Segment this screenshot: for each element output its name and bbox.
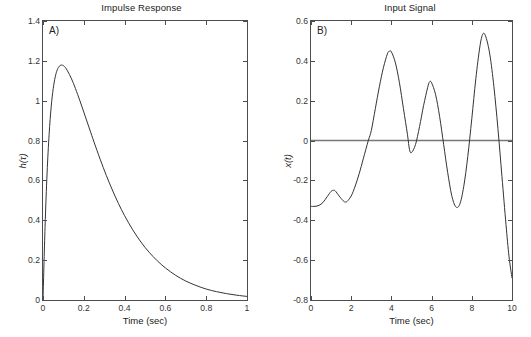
y-tick-mark bbox=[243, 141, 247, 142]
x-tick-label: 6 bbox=[429, 303, 434, 313]
x-tick-label: 0 bbox=[41, 303, 46, 313]
y-tick-label: 0.6 bbox=[296, 16, 308, 26]
y-tick-label: 0.4 bbox=[296, 56, 308, 66]
x-tick-label: 8 bbox=[469, 303, 474, 313]
x-tick-label: 10 bbox=[507, 303, 517, 313]
y-tick-label: -0.2 bbox=[293, 175, 308, 185]
x-tick-mark bbox=[125, 296, 126, 300]
x-tick-mark bbox=[432, 296, 433, 300]
x-tick-mark bbox=[351, 21, 352, 25]
impulse-response-curve bbox=[43, 21, 247, 300]
y-tick-mark bbox=[508, 101, 512, 102]
y-tick-mark bbox=[43, 260, 47, 261]
x-tick-mark bbox=[391, 21, 392, 25]
y-tick-label: 0 bbox=[35, 295, 40, 305]
panel-impulse-response: Impulse Response A) 00.20.40.60.811.21.4… bbox=[0, 0, 265, 337]
y-tick-mark bbox=[311, 220, 315, 221]
x-tick-mark bbox=[165, 21, 166, 25]
x-tick-mark bbox=[311, 296, 312, 300]
x-tick-mark bbox=[206, 296, 207, 300]
y-tick-label: 0.6 bbox=[28, 175, 40, 185]
y-tick-label: 0 bbox=[303, 136, 308, 146]
y-axis-label-b: x(t) bbox=[282, 154, 293, 168]
y-tick-mark bbox=[43, 180, 47, 181]
y-tick-label: 1.2 bbox=[28, 56, 40, 66]
y-tick-mark bbox=[243, 180, 247, 181]
plot-area-b: B) -0.8-0.6-0.4-0.200.20.40.60246810 x(t… bbox=[310, 20, 513, 301]
y-tick-label: -0.8 bbox=[293, 295, 308, 305]
y-tick-mark bbox=[243, 300, 247, 301]
y-tick-label: 1 bbox=[35, 96, 40, 106]
y-tick-mark bbox=[311, 260, 315, 261]
input-signal-curve bbox=[311, 21, 512, 300]
data-series-line bbox=[43, 65, 247, 300]
chart-title-a: Impulse Response bbox=[0, 2, 265, 13]
y-tick-mark bbox=[311, 300, 315, 301]
y-tick-mark bbox=[311, 180, 315, 181]
x-tick-mark bbox=[311, 21, 312, 25]
y-tick-mark bbox=[508, 300, 512, 301]
x-tick-mark bbox=[43, 21, 44, 25]
x-tick-label: 4 bbox=[389, 303, 394, 313]
y-tick-mark bbox=[43, 61, 47, 62]
x-tick-mark bbox=[206, 21, 207, 25]
y-tick-mark bbox=[43, 141, 47, 142]
y-tick-mark bbox=[508, 141, 512, 142]
y-tick-mark bbox=[311, 61, 315, 62]
x-tick-mark bbox=[472, 21, 473, 25]
y-tick-label: 0.2 bbox=[28, 255, 40, 265]
x-axis-label-b: Time (sec) bbox=[311, 315, 512, 326]
y-tick-mark bbox=[43, 220, 47, 221]
panel-input-signal: Input Signal B) -0.8-0.6-0.4-0.200.20.40… bbox=[265, 0, 531, 337]
x-tick-label: 0.2 bbox=[78, 303, 90, 313]
y-tick-mark bbox=[43, 101, 47, 102]
y-tick-label: -0.4 bbox=[293, 215, 308, 225]
data-series-line bbox=[311, 33, 512, 278]
y-tick-label: 1.4 bbox=[28, 16, 40, 26]
y-tick-mark bbox=[243, 260, 247, 261]
x-tick-label: 1 bbox=[245, 303, 250, 313]
x-tick-mark bbox=[432, 21, 433, 25]
x-tick-mark bbox=[472, 296, 473, 300]
x-tick-mark bbox=[512, 21, 513, 25]
y-tick-mark bbox=[243, 61, 247, 62]
y-tick-label: 0.4 bbox=[28, 215, 40, 225]
x-tick-mark bbox=[391, 296, 392, 300]
y-tick-label: 0.2 bbox=[296, 96, 308, 106]
y-tick-mark bbox=[508, 260, 512, 261]
x-tick-label: 2 bbox=[349, 303, 354, 313]
x-tick-mark bbox=[125, 21, 126, 25]
x-tick-mark bbox=[84, 21, 85, 25]
y-tick-mark bbox=[243, 101, 247, 102]
x-tick-mark bbox=[165, 296, 166, 300]
x-tick-label: 0.8 bbox=[200, 303, 212, 313]
y-axis-label-a: h(τ) bbox=[17, 153, 28, 168]
chart-title-b: Input Signal bbox=[265, 2, 531, 13]
y-tick-mark bbox=[508, 180, 512, 181]
y-tick-mark bbox=[311, 101, 315, 102]
y-tick-mark bbox=[43, 300, 47, 301]
x-tick-label: 0 bbox=[309, 303, 314, 313]
x-tick-mark bbox=[247, 21, 248, 25]
y-tick-label: 0.8 bbox=[28, 136, 40, 146]
x-tick-mark bbox=[512, 296, 513, 300]
y-tick-mark bbox=[243, 220, 247, 221]
x-axis-label-a: Time (sec) bbox=[43, 315, 247, 326]
y-tick-mark bbox=[508, 61, 512, 62]
x-tick-mark bbox=[351, 296, 352, 300]
y-tick-mark bbox=[508, 220, 512, 221]
x-tick-mark bbox=[84, 296, 85, 300]
x-tick-mark bbox=[247, 296, 248, 300]
x-tick-mark bbox=[43, 296, 44, 300]
plot-area-a: A) 00.20.40.60.811.21.400.20.40.60.81 h(… bbox=[42, 20, 248, 301]
x-tick-label: 0.4 bbox=[119, 303, 131, 313]
y-tick-label: -0.6 bbox=[293, 255, 308, 265]
x-tick-label: 0.6 bbox=[159, 303, 171, 313]
y-tick-mark bbox=[311, 141, 315, 142]
